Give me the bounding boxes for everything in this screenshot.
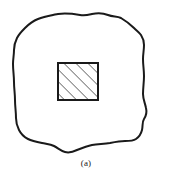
hatched-square-pattern <box>58 63 98 100</box>
figure-caption: (a) <box>81 158 92 168</box>
hatched-square <box>58 63 98 100</box>
figure-container: (a) <box>0 0 172 184</box>
figure-drawing <box>0 0 172 184</box>
figure-caption-row: (a) <box>0 158 172 169</box>
